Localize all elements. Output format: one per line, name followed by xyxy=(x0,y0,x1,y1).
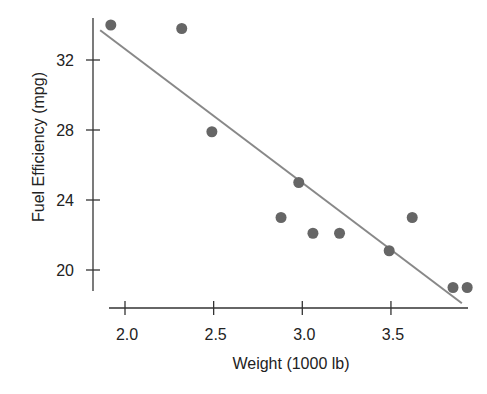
data-point xyxy=(407,212,418,223)
data-point xyxy=(307,228,318,239)
x-tick-label: 2.5 xyxy=(205,326,227,343)
data-point xyxy=(293,177,304,188)
x-axis-title: Weight (1000 lb) xyxy=(232,355,349,372)
y-axis: 20242832 xyxy=(56,18,100,291)
data-point xyxy=(176,23,187,34)
x-tick-label: 3.0 xyxy=(293,326,315,343)
x-tick-label: 2.0 xyxy=(116,326,138,343)
scatter-chart: 20242832 2.02.53.03.5 Weight (1000 lb) F… xyxy=(0,0,487,394)
y-axis-title: Fuel Efficiency (mpg) xyxy=(30,72,47,222)
data-point xyxy=(206,126,217,137)
regression-line xyxy=(100,30,462,303)
data-point xyxy=(334,228,345,239)
data-points-layer xyxy=(105,20,472,294)
data-point xyxy=(105,20,116,31)
y-tick-label: 20 xyxy=(56,262,74,279)
data-point xyxy=(448,282,459,293)
x-axis: 2.02.53.03.5 xyxy=(109,301,468,343)
data-point xyxy=(276,212,287,223)
data-point xyxy=(462,282,473,293)
regression-line-layer xyxy=(100,30,462,303)
y-tick-label: 28 xyxy=(56,122,74,139)
x-tick-label: 3.5 xyxy=(382,326,404,343)
y-tick-label: 24 xyxy=(56,192,74,209)
data-point xyxy=(384,245,395,256)
y-tick-label: 32 xyxy=(56,52,74,69)
